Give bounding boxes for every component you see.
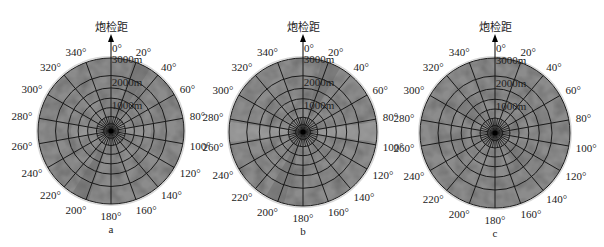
azimuth-tick-label: 140° <box>161 189 182 201</box>
azimuth-tick-label: 160° <box>328 206 349 218</box>
azimuth-tick-label: 40° <box>161 61 176 73</box>
arrow-up-icon <box>300 34 306 42</box>
range-tick-label: 2000m <box>304 76 335 88</box>
polar-panel-b: 炮检距1000m2000m3000m0°20°40°60°80°100°120°… <box>202 20 403 237</box>
azimuth-tick-label: 140° <box>546 193 567 205</box>
azimuth-tick-label: 0° <box>112 42 122 54</box>
azimuth-tick-label: 20° <box>136 46 151 58</box>
azimuth-tick-label: 80° <box>576 112 591 124</box>
azimuth-tick-label: 280° <box>11 110 32 122</box>
azimuth-tick-label: 180° <box>485 214 506 226</box>
center-point <box>493 131 498 136</box>
offset-axis-title: 炮检距 <box>287 20 320 33</box>
azimuth-tick-label: 240° <box>404 170 425 182</box>
polar-panel-a: 炮检距1000m2000m3000m0°20°40°60°80°100°120°… <box>11 20 210 235</box>
azimuth-tick-label: 20° <box>520 46 535 58</box>
azimuth-tick-label: 140° <box>354 191 375 203</box>
azimuth-tick-label: 340° <box>65 46 86 58</box>
center-point <box>301 130 306 135</box>
polar-panel-c: 炮检距1000m2000m3000m0°20°40°60°80°100°120°… <box>393 20 596 239</box>
azimuth-tick-label: 0° <box>304 42 314 54</box>
azimuth-tick-label: 60° <box>373 84 388 96</box>
range-tick-label: 1000m <box>496 100 527 112</box>
azimuth-tick-label: 40° <box>354 61 369 73</box>
azimuth-tick-label: 200° <box>65 204 86 216</box>
azimuth-tick-label: 340° <box>449 46 470 58</box>
azimuth-tick-label: 120° <box>566 170 587 182</box>
arrow-up-icon <box>108 34 114 42</box>
azimuth-tick-label: 320° <box>231 61 252 73</box>
offset-axis-title: 炮检距 <box>95 20 128 33</box>
azimuth-tick-label: 220° <box>231 191 252 203</box>
azimuth-tick-label: 60° <box>180 83 195 95</box>
azimuth-tick-label: 280° <box>202 111 223 123</box>
azimuth-tick-label: 180° <box>293 212 314 224</box>
range-tick-label: 1000m <box>304 99 335 111</box>
azimuth-tick-label: 120° <box>180 167 201 179</box>
azimuth-tick-label: 0° <box>496 42 506 54</box>
azimuth-tick-label: 160° <box>136 204 157 216</box>
panel-letter: a <box>109 223 114 235</box>
azimuth-tick-label: 260° <box>202 141 223 153</box>
range-tick-label: 2000m <box>112 76 143 88</box>
azimuth-tick-label: 220° <box>423 193 444 205</box>
arrow-up-icon <box>492 34 498 42</box>
panel-letter: b <box>300 225 306 237</box>
azimuth-tick-label: 320° <box>40 61 61 73</box>
azimuth-tick-label: 60° <box>566 84 581 96</box>
azimuth-tick-label: 300° <box>404 84 425 96</box>
azimuth-tick-label: 340° <box>257 46 278 58</box>
azimuth-tick-label: 20° <box>328 46 343 58</box>
figure-canvas: 炮检距1000m2000m3000m0°20°40°60°80°100°120°… <box>0 0 604 247</box>
range-tick-label: 1000m <box>112 99 143 111</box>
azimuth-tick-label: 300° <box>212 84 233 96</box>
center-point <box>109 129 114 134</box>
range-tick-label: 2000m <box>496 77 527 89</box>
azimuth-tick-label: 320° <box>423 61 444 73</box>
azimuth-tick-label: 120° <box>373 169 394 181</box>
azimuth-tick-label: 200° <box>449 208 470 220</box>
azimuth-tick-label: 40° <box>546 61 561 73</box>
azimuth-tick-label: 260° <box>393 142 414 154</box>
azimuth-tick-label: 220° <box>40 189 61 201</box>
azimuth-tick-label: 260° <box>11 140 32 152</box>
azimuth-tick-label: 160° <box>520 208 541 220</box>
azimuth-tick-label: 180° <box>101 210 122 222</box>
offset-axis-title: 炮检距 <box>479 20 512 33</box>
azimuth-tick-label: 100° <box>576 142 597 154</box>
azimuth-tick-label: 240° <box>21 167 42 179</box>
azimuth-tick-label: 280° <box>393 112 414 124</box>
azimuth-tick-label: 200° <box>257 206 278 218</box>
azimuth-tick-label: 240° <box>212 169 233 181</box>
panel-letter: c <box>493 227 498 239</box>
azimuth-tick-label: 300° <box>21 83 42 95</box>
